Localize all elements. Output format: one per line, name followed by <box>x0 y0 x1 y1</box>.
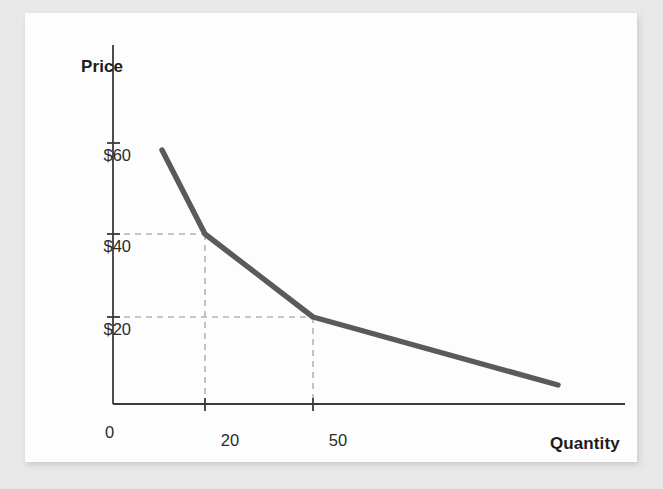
chart-card: Price Quantity $60 $40 $20 0 20 50 <box>25 13 637 462</box>
y-tick-label-60: $60 <box>77 146 131 165</box>
y-tick-label-20: $20 <box>77 320 131 339</box>
y-tick-label-40: $40 <box>77 237 131 256</box>
origin-label: 0 <box>105 423 114 442</box>
x-tick-label-20: 20 <box>207 431 253 450</box>
x-tick-label-50: 50 <box>315 431 361 450</box>
y-axis-title: Price <box>81 57 123 77</box>
x-axis-title: Quantity <box>550 434 620 454</box>
demand-curve-series <box>162 150 558 385</box>
